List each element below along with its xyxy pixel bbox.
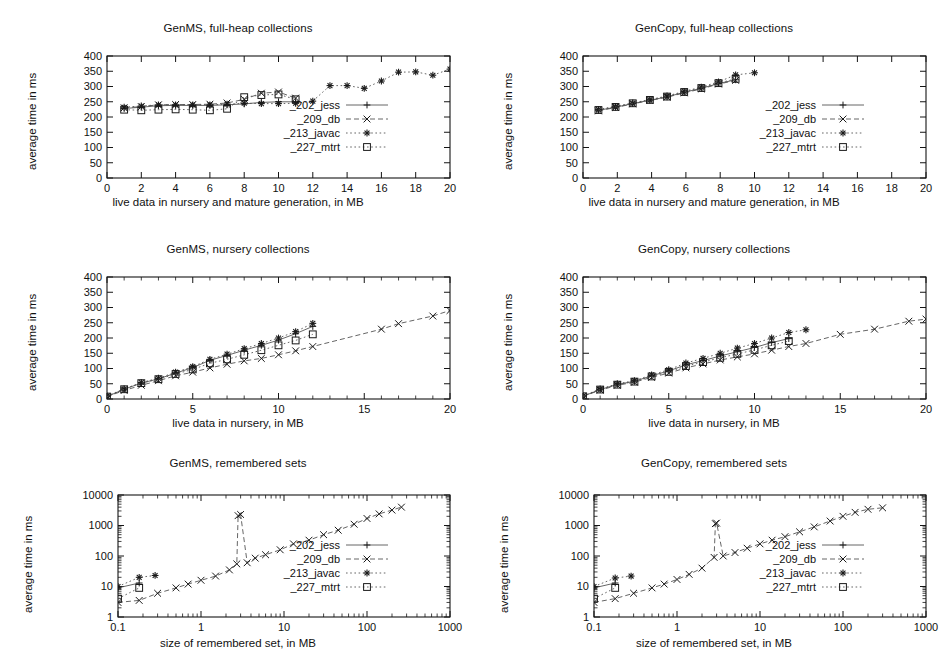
svg-text:1: 1 — [198, 621, 204, 633]
svg-text:14: 14 — [341, 182, 353, 194]
svg-text:2: 2 — [614, 182, 620, 194]
x-axis-label: live data in nursery and mature generati… — [0, 196, 476, 208]
svg-text:0: 0 — [104, 182, 110, 194]
svg-text:1000: 1000 — [565, 519, 589, 531]
svg-text:1000: 1000 — [914, 621, 938, 633]
figure-grid: GenMS, full-heap collections average tim… — [0, 0, 952, 663]
svg-text:8: 8 — [717, 182, 723, 194]
x-axis-label: live data in nursery, in MB — [476, 417, 952, 429]
svg-text:18: 18 — [410, 182, 422, 194]
svg-text:400: 400 — [84, 50, 102, 62]
svg-text:_202_jess: _202_jess — [289, 99, 341, 111]
svg-text:_202_jess: _202_jess — [765, 99, 817, 111]
svg-text:200: 200 — [84, 332, 102, 344]
svg-text:20: 20 — [444, 182, 456, 194]
svg-text:0.1: 0.1 — [586, 621, 601, 633]
chart-panel-gencopy-nursery: GenCopy, nursery collections average tim… — [476, 221, 952, 442]
svg-text:14: 14 — [817, 182, 829, 194]
svg-text:_202_jess: _202_jess — [765, 539, 817, 551]
svg-text:6: 6 — [207, 182, 213, 194]
svg-text:200: 200 — [560, 111, 578, 123]
plot-area: 05010015020025030035040005101520 — [0, 221, 476, 442]
x-axis-label: size of remembered set, in MB — [0, 637, 476, 649]
svg-text:_209_db: _209_db — [296, 553, 340, 565]
svg-text:100: 100 — [560, 141, 578, 153]
svg-text:10: 10 — [754, 621, 766, 633]
svg-text:20: 20 — [444, 403, 456, 415]
chart-panel-gencopy-remsets: GenCopy, remembered sets average time in… — [476, 435, 952, 663]
svg-text:10: 10 — [577, 580, 589, 592]
svg-text:1000: 1000 — [438, 621, 462, 633]
svg-text:_213_javac: _213_javac — [759, 127, 817, 139]
svg-text:12: 12 — [783, 182, 795, 194]
svg-text:0: 0 — [96, 393, 102, 405]
svg-text:4: 4 — [173, 182, 179, 194]
svg-text:350: 350 — [84, 286, 102, 298]
svg-text:100: 100 — [571, 550, 589, 562]
svg-text:_213_javac: _213_javac — [759, 567, 817, 579]
svg-text:0: 0 — [104, 403, 110, 415]
svg-text:250: 250 — [560, 96, 578, 108]
svg-text:_227_mtrt: _227_mtrt — [289, 581, 340, 593]
x-axis-label: live data in nursery, in MB — [0, 417, 476, 429]
chart-panel-genms-nursery: GenMS, nursery collections average time … — [0, 221, 476, 442]
svg-text:0: 0 — [572, 172, 578, 184]
svg-text:50: 50 — [90, 157, 102, 169]
svg-text:10: 10 — [272, 182, 284, 194]
svg-text:100: 100 — [84, 362, 102, 374]
plot-area: 1101001000100000.11101001000_202_jess_20… — [0, 435, 476, 663]
svg-text:5: 5 — [190, 403, 196, 415]
svg-text:350: 350 — [560, 65, 578, 77]
svg-text:1: 1 — [674, 621, 680, 633]
svg-text:15: 15 — [834, 403, 846, 415]
svg-text:0: 0 — [580, 182, 586, 194]
svg-text:5: 5 — [666, 403, 672, 415]
svg-text:400: 400 — [84, 271, 102, 283]
svg-text:8: 8 — [241, 182, 247, 194]
svg-text:300: 300 — [84, 301, 102, 313]
svg-text:200: 200 — [84, 111, 102, 123]
svg-text:_227_mtrt: _227_mtrt — [289, 141, 340, 153]
svg-text:150: 150 — [560, 347, 578, 359]
svg-text:_209_db: _209_db — [772, 553, 816, 565]
plot-area: 1101001000100000.11101001000_202_jess_20… — [476, 435, 952, 663]
svg-text:150: 150 — [560, 126, 578, 138]
svg-text:10000: 10000 — [82, 489, 113, 501]
svg-text:350: 350 — [560, 286, 578, 298]
svg-text:16: 16 — [375, 182, 387, 194]
svg-text:250: 250 — [560, 317, 578, 329]
svg-text:20: 20 — [920, 182, 932, 194]
svg-text:10: 10 — [272, 403, 284, 415]
svg-text:50: 50 — [90, 378, 102, 390]
svg-text:10000: 10000 — [558, 489, 589, 501]
svg-text:300: 300 — [84, 80, 102, 92]
svg-text:10: 10 — [101, 580, 113, 592]
svg-text:350: 350 — [84, 65, 102, 77]
chart-panel-gencopy-fullheap: GenCopy, full-heap collections average t… — [476, 0, 952, 221]
svg-text:10: 10 — [748, 182, 760, 194]
svg-text:100: 100 — [358, 621, 376, 633]
svg-text:0: 0 — [580, 403, 586, 415]
svg-text:400: 400 — [560, 50, 578, 62]
svg-text:10: 10 — [748, 403, 760, 415]
svg-text:100: 100 — [560, 362, 578, 374]
svg-text:0: 0 — [96, 172, 102, 184]
svg-text:18: 18 — [886, 182, 898, 194]
svg-text:400: 400 — [560, 271, 578, 283]
svg-text:50: 50 — [566, 157, 578, 169]
svg-text:1000: 1000 — [89, 519, 113, 531]
svg-text:_227_mtrt: _227_mtrt — [765, 581, 816, 593]
svg-text:6: 6 — [683, 182, 689, 194]
svg-text:_209_db: _209_db — [296, 113, 340, 125]
svg-text:300: 300 — [560, 301, 578, 313]
svg-text:_213_javac: _213_javac — [283, 127, 341, 139]
svg-text:50: 50 — [566, 378, 578, 390]
svg-text:15: 15 — [358, 403, 370, 415]
plot-area: 05010015020025030035040005101520 — [476, 221, 952, 442]
svg-text:250: 250 — [84, 317, 102, 329]
svg-text:2: 2 — [138, 182, 144, 194]
svg-text:16: 16 — [851, 182, 863, 194]
svg-text:_202_jess: _202_jess — [289, 539, 341, 551]
svg-text:100: 100 — [84, 141, 102, 153]
svg-text:_227_mtrt: _227_mtrt — [765, 141, 816, 153]
